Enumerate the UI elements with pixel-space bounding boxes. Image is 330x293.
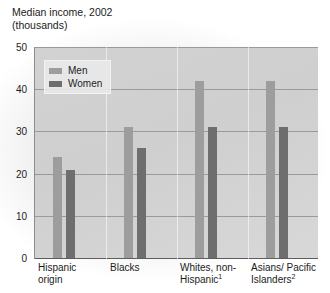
- x-label-line2: Hispanic: [180, 274, 218, 285]
- bar-men-blacks: [124, 127, 133, 258]
- y-tick-0: 0: [21, 253, 27, 264]
- x-label-footnote-marker: 1: [218, 273, 222, 280]
- bar-women-hispanic-origin: [66, 170, 75, 258]
- y-tick-10: 10: [16, 211, 27, 222]
- x-label-line2: origin: [38, 274, 62, 285]
- column-separator: [177, 47, 178, 259]
- x-label-line1: Asians/ Pacific: [251, 262, 316, 273]
- x-label-line1: Hispanic: [38, 262, 76, 273]
- legend-label-men: Men: [68, 65, 87, 76]
- chart-figure: Median income, 2002 (thousands) 50 40 30…: [0, 0, 330, 293]
- bar-women-blacks: [137, 148, 146, 258]
- y-tick-20: 20: [16, 169, 27, 180]
- x-label-asians-pacific-islanders: Asians/ Pacific Islanders2: [251, 262, 329, 286]
- bar-women-whites-non-hispanic: [208, 127, 217, 258]
- y-axis: 50 40 30 20 10 0: [0, 0, 34, 293]
- legend: Men Women: [44, 60, 111, 94]
- legend-item-women: Women: [49, 77, 102, 90]
- x-label-blacks: Blacks: [110, 262, 176, 274]
- bar-men-asians-pacific-islanders: [266, 81, 275, 258]
- bar-men-whites-non-hispanic: [195, 81, 204, 258]
- legend-swatch-men-icon: [49, 68, 62, 74]
- x-label-footnote-marker: 2: [292, 273, 296, 280]
- legend-label-women: Women: [68, 78, 102, 89]
- y-tick-30: 30: [16, 126, 27, 137]
- x-label-line2: Islanders: [251, 274, 292, 285]
- x-label-line1: Blacks: [110, 262, 139, 273]
- bar-men-hispanic-origin: [53, 157, 62, 258]
- legend-swatch-women-icon: [49, 81, 62, 87]
- x-label-whites-non-hispanic: Whites, non- Hispanic1: [180, 262, 250, 286]
- column-separator: [248, 47, 249, 259]
- y-tick-40: 40: [16, 84, 27, 95]
- legend-item-men: Men: [49, 64, 102, 77]
- x-label-line1: Whites, non-: [180, 262, 236, 273]
- x-axis: Hispanic origin Blacks Whites, non- Hisp…: [34, 262, 324, 293]
- bar-women-asians-pacific-islanders: [279, 127, 288, 258]
- x-label-hispanic-origin: Hispanic origin: [38, 262, 104, 286]
- y-tick-50: 50: [16, 42, 27, 53]
